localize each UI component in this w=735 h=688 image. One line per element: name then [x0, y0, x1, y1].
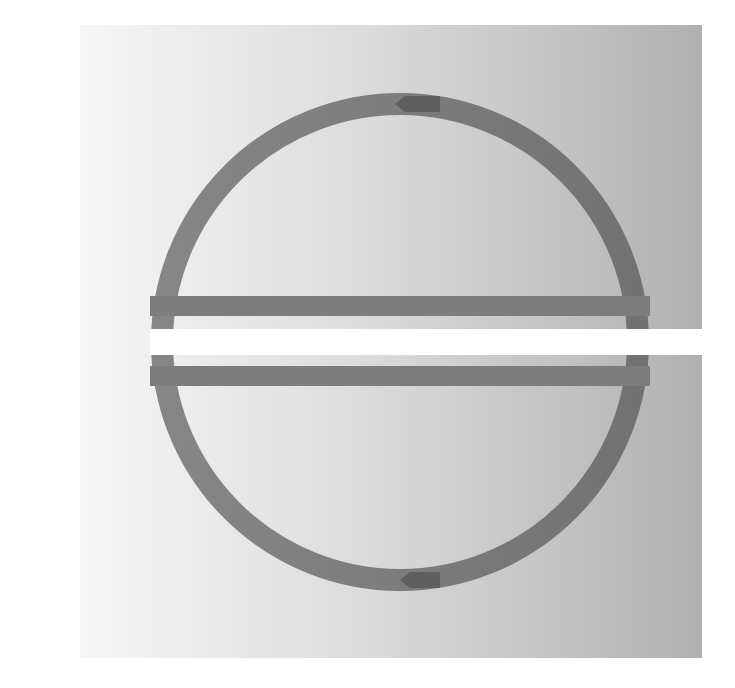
- pipeline-stripe-bottom: [150, 366, 650, 386]
- pipeline-stripe-top: [150, 296, 650, 316]
- pipeline-band: [150, 329, 735, 355]
- process-cycle-diagram: [0, 0, 735, 688]
